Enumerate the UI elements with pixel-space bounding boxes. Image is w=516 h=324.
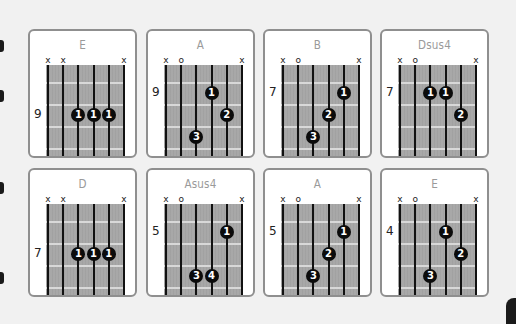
guitar-string (47, 65, 49, 158)
guitar-string (399, 65, 401, 158)
guitar-string (211, 65, 213, 158)
guitar-string (429, 204, 431, 297)
fret-line (281, 82, 359, 84)
finger-dot: 2 (322, 247, 336, 261)
open-string-icon: o (293, 56, 303, 65)
fret-number: 9 (152, 85, 162, 99)
guitar-string (312, 204, 314, 297)
guitar-string (399, 204, 401, 297)
chord-card: Dxxx7111 (28, 168, 137, 297)
finger-dot: 1 (71, 108, 85, 122)
fret-number: 7 (269, 85, 279, 99)
guitar-string (62, 65, 64, 158)
fret-line (46, 265, 124, 267)
finger-dot: 2 (322, 108, 336, 122)
chord-name: Dsus4 (393, 37, 477, 52)
guitar-string (195, 65, 197, 158)
guitar-string (445, 65, 447, 158)
finger-dot: 1 (205, 86, 219, 100)
fret-number: 5 (269, 224, 279, 238)
muted-string-icon: x (237, 56, 247, 65)
guitar-string (226, 204, 228, 297)
fret-line (46, 126, 124, 128)
finger-dot: 1 (423, 86, 437, 100)
muted-string-icon: x (119, 56, 129, 65)
guitar-string (123, 65, 125, 158)
fret-number: 9 (34, 107, 44, 121)
guitar-string (475, 204, 477, 297)
guitar-string (297, 204, 299, 297)
finger-dot: 1 (71, 247, 85, 261)
page-edge-mark (0, 40, 4, 52)
muted-string-icon: x (43, 195, 53, 204)
open-string-icon: o (410, 56, 420, 65)
fret-line (164, 82, 242, 84)
muted-string-icon: x (354, 195, 364, 204)
fretboard: 134 (164, 204, 242, 297)
chord-card: Asus4xox5134 (146, 168, 255, 297)
muted-string-icon: x (161, 195, 171, 204)
finger-dot: 3 (306, 130, 320, 144)
finger-dot: 1 (439, 225, 453, 239)
guitar-string (180, 65, 182, 158)
muted-string-icon: x (471, 56, 481, 65)
muted-string-icon: x (471, 195, 481, 204)
finger-dot: 2 (454, 108, 468, 122)
fret-line (46, 148, 124, 150)
guitar-string (358, 204, 360, 297)
muted-string-icon: x (119, 195, 129, 204)
guitar-string (312, 65, 314, 158)
fretboard: 112 (398, 65, 476, 158)
guitar-string (241, 204, 243, 297)
guitar-string (241, 65, 243, 158)
guitar-string (445, 204, 447, 297)
fret-line (46, 287, 124, 289)
finger-dot: 1 (102, 108, 116, 122)
page-edge-mark (0, 272, 4, 284)
chord-name: A (276, 176, 360, 191)
guitar-string (297, 65, 299, 158)
finger-dot: 2 (454, 247, 468, 261)
fret-line (281, 148, 359, 150)
open-string-icon: o (176, 56, 186, 65)
chord-card: Axox5123 (263, 168, 372, 297)
open-string-icon: o (293, 195, 303, 204)
fret-line (46, 221, 124, 223)
guitar-string (475, 65, 477, 158)
guitar-string (123, 204, 125, 297)
fret-line (46, 104, 124, 106)
chord-name: E (393, 176, 477, 191)
guitar-string (282, 65, 284, 158)
guitar-string (358, 65, 360, 158)
fret-line (46, 82, 124, 84)
fretboard: 123 (164, 65, 242, 158)
finger-dot: 1 (102, 247, 116, 261)
open-string-icon: o (410, 195, 420, 204)
guitar-string (180, 204, 182, 297)
fretboard: 123 (281, 65, 359, 158)
finger-dot: 1 (439, 86, 453, 100)
fret-line (398, 221, 476, 223)
chord-name: Asus4 (159, 176, 243, 191)
guitar-string (211, 204, 213, 297)
muted-string-icon: x (278, 56, 288, 65)
fret-line (281, 287, 359, 289)
guitar-string (429, 65, 431, 158)
finger-dot: 3 (423, 269, 437, 283)
finger-dot: 1 (87, 108, 101, 122)
muted-string-icon: x (58, 56, 68, 65)
fret-line (281, 243, 359, 245)
chord-card: Exox4123 (380, 168, 489, 297)
guitar-string (282, 204, 284, 297)
fret-line (164, 265, 242, 267)
fretboard: 111 (46, 204, 124, 297)
muted-string-icon: x (395, 195, 405, 204)
guitar-string (62, 204, 64, 297)
fret-line (281, 221, 359, 223)
muted-string-icon: x (43, 56, 53, 65)
fret-line (281, 104, 359, 106)
chord-card: Exxx9111 (28, 29, 137, 158)
guitar-string (195, 204, 197, 297)
fret-line (398, 104, 476, 106)
finger-dot: 1 (337, 225, 351, 239)
